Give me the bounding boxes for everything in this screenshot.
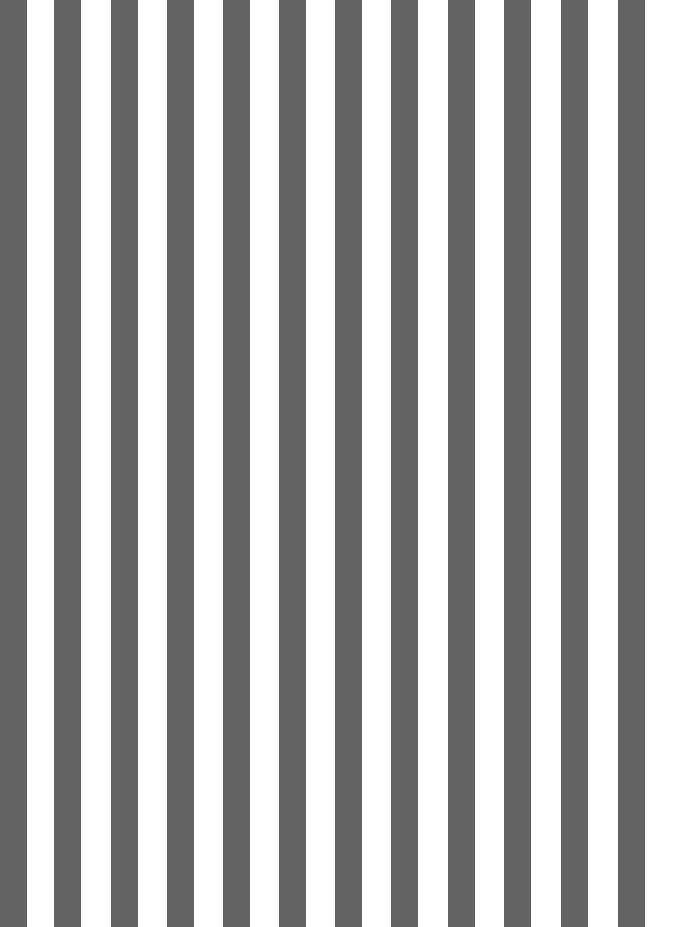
- stripe-6: [279, 0, 306, 927]
- stripe-7: [335, 0, 362, 927]
- stripe-10: [504, 0, 531, 927]
- stripe-4: [167, 0, 194, 927]
- stripe-2: [54, 0, 81, 927]
- stripe-5: [223, 0, 250, 927]
- striped-pattern-canvas: [0, 0, 674, 927]
- stripe-11: [561, 0, 588, 927]
- stripe-8: [391, 0, 418, 927]
- stripe-9: [448, 0, 475, 927]
- stripe-3: [111, 0, 138, 927]
- stripe-1: [0, 0, 27, 927]
- stripe-12: [618, 0, 645, 927]
